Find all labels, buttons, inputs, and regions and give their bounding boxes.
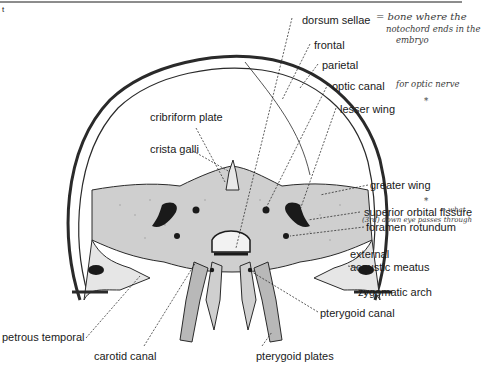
note-optic: for optic nerve	[396, 80, 460, 89]
left-foramen-rotundum	[174, 233, 180, 239]
label-greater-wing: greater wing	[370, 179, 431, 191]
note-fissure-2: (3rd) down eye passes through	[362, 216, 472, 225]
note-dorsum-1: = bone where the	[376, 12, 467, 21]
right-pterygoid-plate	[254, 262, 282, 342]
note-asterisk-1: *	[424, 97, 428, 106]
label-crista-galli: crista galli	[150, 143, 199, 155]
label-optic-canal: optic canal	[332, 80, 385, 92]
label-frontal: frontal	[314, 39, 345, 51]
note-dorsum-2: notochord ends in the	[386, 25, 481, 34]
sella-turcica	[212, 231, 250, 252]
right-medial-plate	[240, 262, 256, 330]
left-pterygoid-plate	[180, 262, 208, 342]
label-pterygoid-canal: pterygoid canal	[320, 307, 395, 319]
right-pterygoid-canal	[248, 268, 252, 272]
left-acoustic-meatus	[88, 265, 104, 275]
label-external-acoustic-meatus-1: external	[350, 248, 389, 260]
note-dorsum-3: embryo	[396, 36, 429, 45]
left-medial-plate	[206, 262, 222, 330]
label-petrous-temporal: petrous temporal	[2, 331, 85, 343]
note-fissure-1: → what	[440, 206, 466, 215]
label-external-acoustic-meatus-2: acoustic meatus	[350, 261, 429, 273]
label-lesser-wing: lesser wing	[340, 103, 395, 115]
label-pterygoid-plates: pterygoid plates	[256, 350, 334, 362]
coronal-suture	[245, 62, 310, 175]
label-cribriform-plate: cribriform plate	[150, 111, 223, 123]
left-pterygoid-canal	[210, 268, 214, 272]
corner-mark: t	[2, 5, 5, 14]
label-parietal: parietal	[322, 59, 358, 71]
note-asterisk-2: *	[424, 197, 428, 206]
label-zygomatic-arch: zygomatic arch	[358, 286, 432, 298]
label-carotid-canal: carotid canal	[94, 350, 156, 362]
left-optic-canal	[193, 207, 200, 214]
right-foramen-rotundum	[283, 233, 289, 239]
label-dorsum-sellae: dorsum sellae	[302, 14, 370, 26]
